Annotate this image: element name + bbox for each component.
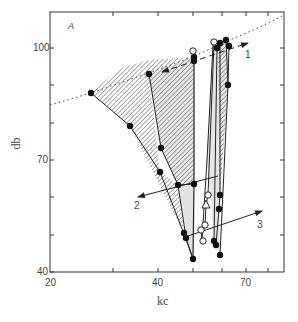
arrow-3-label: 3 <box>257 219 263 230</box>
arrow-1-label: 1 <box>245 49 251 60</box>
x-tick-label-70: 70 <box>240 277 251 288</box>
arrow-1 <box>162 43 248 72</box>
y-tick-label-100: 100 <box>33 42 50 53</box>
panel-label: A <box>68 21 74 31</box>
x-axis-title: kc <box>157 294 168 309</box>
arrow-2-label: 2 <box>134 200 140 211</box>
x-tick-label-40: 40 <box>152 277 163 288</box>
y-axis-title: db <box>9 138 24 150</box>
y-tick-label-40: 40 <box>37 266 48 277</box>
y-tick-label-70: 70 <box>37 154 48 165</box>
x-tick-label-20: 20 <box>45 277 56 288</box>
